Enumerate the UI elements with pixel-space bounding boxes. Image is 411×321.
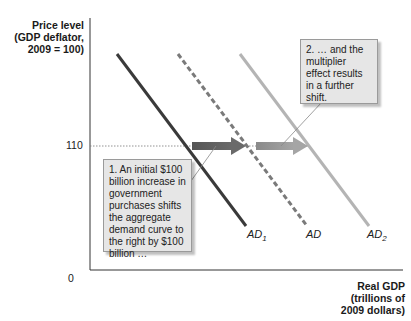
- callout-2-leader: [281, 102, 322, 146]
- callout-2: 2. … and the multiplier effect results i…: [300, 39, 378, 104]
- curve-label-ad2: AD2: [367, 228, 387, 243]
- curve-label-ad1-main: AD: [247, 228, 262, 240]
- y-axis-title-line-2: (GDP deflator,: [0, 31, 84, 43]
- curve-label-ad1-sub: 1: [262, 234, 266, 243]
- callout-1: 1. An initial $100 billion increase in g…: [103, 159, 192, 252]
- x-axis-title: Real GDP (trillions of 2009 dollars): [285, 280, 405, 316]
- x-axis-title-line-3: 2009 dollars): [285, 304, 405, 316]
- y-axis-title-line-3: 2009 = 100): [0, 43, 84, 55]
- curve-label-ad-main: AD: [306, 228, 321, 240]
- y-axis-title-line-1: Price level: [0, 19, 84, 31]
- x-axis-title-line-1: Real GDP: [285, 280, 405, 292]
- y-axis-title: Price level (GDP deflator, 2009 = 100): [0, 19, 84, 55]
- shift-arrow-1: [192, 137, 246, 155]
- origin-label: 0: [68, 272, 74, 284]
- curve-label-ad1: AD1: [247, 228, 267, 243]
- curve-ad: [178, 54, 307, 226]
- shift-arrow-2: [256, 137, 308, 155]
- curve-label-ad2-main: AD: [367, 228, 382, 240]
- x-axis-title-line-2: (trillions of: [285, 292, 405, 304]
- curve-label-ad: AD: [306, 228, 321, 240]
- y-tick-110: 110: [66, 139, 83, 151]
- curve-label-ad2-sub: 2: [382, 234, 386, 243]
